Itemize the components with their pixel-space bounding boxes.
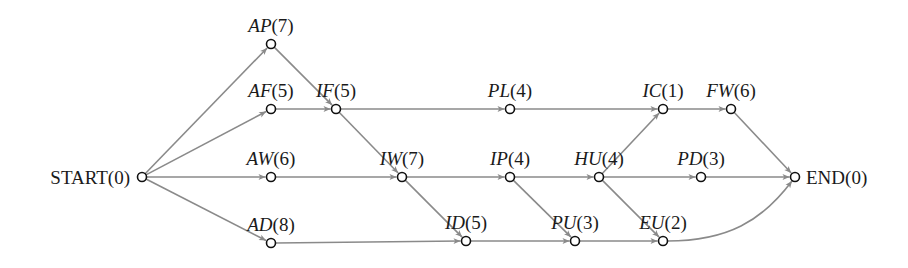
node-circle-icon — [138, 173, 147, 182]
node-circle-icon — [267, 239, 276, 248]
node-circle-icon — [506, 173, 515, 182]
node-circle-icon — [791, 173, 800, 182]
node-label: IF(5) — [315, 80, 356, 102]
node-label: AF(5) — [246, 80, 293, 102]
node-label: AD(8) — [245, 214, 294, 236]
node-circle-icon — [571, 237, 580, 246]
node-end: END(0) — [791, 167, 868, 189]
node-label: AP(7) — [246, 15, 293, 37]
node-label: END(0) — [806, 167, 867, 189]
node-circle-icon — [398, 173, 407, 182]
node-label: PL(4) — [487, 80, 532, 102]
node-label: HU(4) — [573, 148, 624, 170]
node-circle-icon — [267, 173, 276, 182]
node-label: START(0) — [50, 167, 130, 189]
node-label: IP(4) — [489, 148, 530, 170]
node-circle-icon — [332, 105, 341, 114]
nodes-layer: START(0)AP(7)AF(5)AW(6)AD(8)IF(5)PL(4)IC… — [50, 15, 867, 248]
node-start: START(0) — [50, 167, 146, 189]
node-circle-icon — [267, 40, 276, 49]
node-circle-icon — [697, 173, 706, 182]
node-label: FW(6) — [705, 80, 756, 102]
node-circle-icon — [267, 105, 276, 114]
node-label: PD(3) — [676, 148, 724, 170]
node-circle-icon — [462, 237, 471, 246]
node-label: AW(6) — [245, 148, 296, 170]
node-label: IC(1) — [641, 80, 683, 102]
node-circle-icon — [659, 237, 668, 246]
node-circle-icon — [506, 105, 515, 114]
node-ap: AP(7) — [246, 15, 293, 49]
node-label: IW(7) — [379, 148, 424, 170]
edge-ad-to-id — [275, 241, 460, 243]
node-label: PU(3) — [550, 212, 598, 234]
node-circle-icon — [659, 105, 668, 114]
activity-network-diagram: START(0)AP(7)AF(5)AW(6)AD(8)IF(5)PL(4)IC… — [0, 0, 908, 268]
node-circle-icon — [595, 173, 604, 182]
node-label: EU(2) — [638, 212, 686, 234]
node-label: ID(5) — [444, 212, 487, 234]
edge-fw-to-end — [734, 112, 791, 173]
node-circle-icon — [727, 105, 736, 114]
